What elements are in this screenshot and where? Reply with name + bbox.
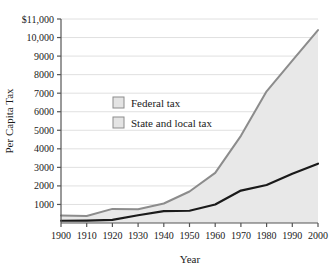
svg-text:9000: 9000 xyxy=(34,51,54,62)
svg-text:1980: 1980 xyxy=(257,230,277,241)
y-axis-title: Per Capita Tax xyxy=(3,88,15,154)
svg-text:7000: 7000 xyxy=(34,88,54,99)
svg-text:1960: 1960 xyxy=(205,230,225,241)
svg-text:1900: 1900 xyxy=(51,230,71,241)
tax-area-chart: 10002000300040005000600070008000900010,0… xyxy=(0,0,335,271)
x-axis-tick-labels: 1900191019201930194019501960197019801990… xyxy=(51,230,328,241)
svg-text:1930: 1930 xyxy=(128,230,148,241)
svg-text:10,000: 10,000 xyxy=(27,32,55,43)
x-axis-title: Year xyxy=(180,253,201,265)
svg-text:4000: 4000 xyxy=(34,143,54,154)
legend-swatch-federal-tax xyxy=(113,97,124,108)
legend-label-state-and-local-tax: State and local tax xyxy=(131,117,212,129)
svg-text:1970: 1970 xyxy=(231,230,251,241)
chart-container: 10002000300040005000600070008000900010,0… xyxy=(0,0,335,271)
svg-text:1940: 1940 xyxy=(154,230,174,241)
legend-swatch-state-and-local-tax xyxy=(113,117,124,128)
legend-label-federal-tax: Federal tax xyxy=(131,97,181,109)
svg-text:1000: 1000 xyxy=(34,199,54,210)
svg-text:1990: 1990 xyxy=(282,230,302,241)
svg-text:1920: 1920 xyxy=(102,230,122,241)
svg-text:6000: 6000 xyxy=(34,106,54,117)
svg-text:2000: 2000 xyxy=(308,230,328,241)
svg-text:5000: 5000 xyxy=(34,125,54,136)
svg-text:$11,000: $11,000 xyxy=(22,14,54,25)
svg-text:1950: 1950 xyxy=(180,230,200,241)
svg-text:1910: 1910 xyxy=(77,230,97,241)
svg-text:8000: 8000 xyxy=(34,69,54,80)
svg-text:3000: 3000 xyxy=(34,162,54,173)
svg-text:2000: 2000 xyxy=(34,180,54,191)
